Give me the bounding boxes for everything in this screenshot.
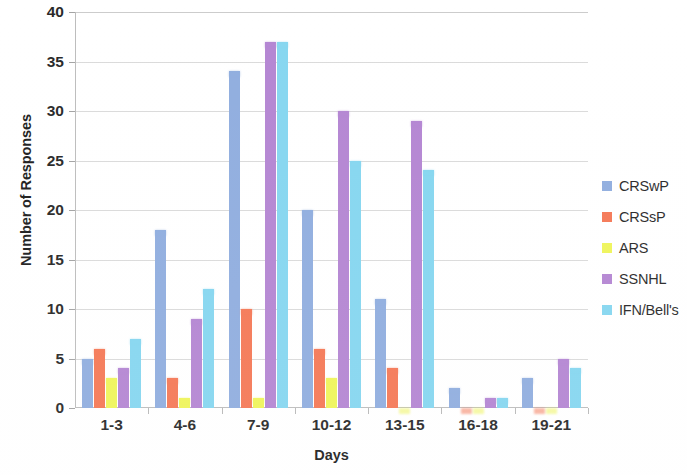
bar-fill: [155, 230, 166, 408]
bar: [522, 378, 533, 408]
x-axis-tick: [588, 408, 589, 414]
y-axis-tick: [69, 408, 75, 409]
bar: [203, 289, 214, 408]
y-axis-tick-label: 15: [47, 251, 64, 269]
x-axis-tick-label: 13-15: [368, 416, 441, 434]
bar-fill: [167, 378, 178, 408]
bar-fill: [387, 368, 398, 408]
x-axis-tick: [368, 408, 369, 414]
bar-group: [515, 12, 588, 408]
bar: [82, 359, 93, 409]
bar: [449, 388, 460, 408]
x-axis-title: Days: [75, 447, 588, 463]
bar-fill: [375, 299, 386, 408]
bar: [302, 210, 313, 408]
bar-fill: [253, 398, 264, 408]
bar-fill: [118, 368, 129, 408]
bar: [118, 368, 129, 408]
bar-fill: [302, 210, 313, 408]
legend-label: CRSsP: [619, 209, 666, 225]
y-axis-tick-label: 40: [47, 3, 64, 21]
legend-swatch-icon: [602, 274, 612, 284]
x-axis-tick: [222, 408, 223, 414]
bar-fill: [522, 378, 533, 408]
legend-label: IFN/Bell's: [619, 302, 679, 318]
bar-fill: [497, 398, 508, 408]
bar: [130, 339, 141, 408]
y-axis-tick-label: 35: [47, 53, 64, 71]
x-axis-tick: [295, 408, 296, 414]
bar: [558, 359, 569, 409]
bar: [497, 398, 508, 408]
bar-fill: [241, 309, 252, 408]
legend-item-ssnhl: SSNHL: [602, 263, 687, 294]
bar-fill: [106, 378, 117, 408]
legend-swatch-icon: [602, 305, 612, 315]
legend-item-crssp: CRSsP: [602, 201, 687, 232]
x-axis-tick-labels: 1-34-67-910-1213-1516-1819-21: [75, 416, 588, 434]
bar: [570, 368, 581, 408]
x-axis-tick-label: 16-18: [441, 416, 514, 434]
bar-group: [75, 12, 148, 408]
y-axis-tick-label: 0: [55, 399, 64, 417]
bar: [314, 349, 325, 408]
legend-swatch-icon: [602, 181, 612, 191]
bar: [350, 161, 361, 409]
bar: [191, 319, 202, 408]
x-axis-tick-label: 1-3: [75, 416, 148, 434]
bar-fill: [411, 121, 422, 408]
bar: [423, 170, 434, 408]
bar-fill: [423, 170, 434, 408]
legend-swatch-icon: [602, 212, 612, 222]
legend-label: CRSwP: [619, 178, 669, 194]
bar: [253, 398, 264, 408]
x-axis-tick: [148, 408, 149, 414]
x-axis-tick-label: 7-9: [222, 416, 295, 434]
bar-fill: [82, 359, 93, 409]
y-axis-tick-label: 25: [47, 152, 64, 170]
legend-label: ARS: [619, 240, 648, 256]
bar: [155, 230, 166, 408]
x-axis-tick-label: 19-21: [515, 416, 588, 434]
bar-fill: [350, 161, 361, 409]
bar: [106, 378, 117, 408]
bar: [229, 71, 240, 408]
legend-swatch-icon: [602, 243, 612, 253]
legend: CRSwPCRSsPARSSSNHLIFN/Bell's: [602, 170, 687, 325]
bar-fill: [326, 378, 337, 408]
bar: [265, 42, 276, 408]
bar-fill: [314, 349, 325, 408]
bar-fill: [485, 398, 496, 408]
bar-fill: [179, 398, 190, 408]
x-axis-tick-label: 4-6: [148, 416, 221, 434]
bar: [485, 398, 496, 408]
bar: [411, 121, 422, 408]
bar-fill: [277, 42, 288, 408]
y-axis-tick-label: 30: [47, 102, 64, 120]
bar-fill: [570, 368, 581, 408]
bar: [277, 42, 288, 408]
bar-fill: [191, 319, 202, 408]
legend-item-ifn-bell-s: IFN/Bell's: [602, 294, 687, 325]
bar: [241, 309, 252, 408]
bar: [387, 368, 398, 408]
bar-fill: [449, 388, 460, 408]
bar-fill: [338, 111, 349, 408]
bar-fill: [94, 349, 105, 408]
bar-group: [441, 12, 514, 408]
bar: [338, 111, 349, 408]
bar-group: [148, 12, 221, 408]
x-axis-tick-label: 10-12: [295, 416, 368, 434]
bar: [375, 299, 386, 408]
bar-group: [368, 12, 441, 408]
bar-groups: [75, 12, 588, 408]
bar-group: [295, 12, 368, 408]
bar-fill: [203, 289, 214, 408]
legend-item-ars: ARS: [602, 232, 687, 263]
bar: [179, 398, 190, 408]
legend-label: SSNHL: [619, 271, 666, 287]
bar: [167, 378, 178, 408]
y-axis-tick-label: 20: [47, 201, 64, 219]
bar-fill: [130, 339, 141, 408]
bar-fill: [229, 71, 240, 408]
